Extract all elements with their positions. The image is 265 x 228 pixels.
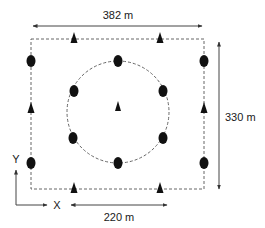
ellipse-markers	[27, 55, 209, 169]
width-label: 382 m	[103, 9, 134, 21]
inner-circle	[67, 61, 169, 163]
ellipse-marker-icon	[200, 55, 209, 67]
ellipse-marker-icon	[27, 55, 36, 67]
ellipse-marker-icon	[200, 157, 209, 169]
diameter-label: 220 m	[104, 211, 135, 223]
ellipse-marker-icon	[159, 85, 168, 97]
ellipse-marker-icon	[114, 55, 123, 67]
triangle-marker-icon	[71, 182, 78, 193]
triangle-marker-icon	[71, 32, 78, 43]
ellipse-marker-icon	[159, 132, 168, 144]
ellipse-marker-icon	[69, 132, 78, 144]
field-layout-diagram: 382 m 330 m Y X 220 m	[0, 0, 265, 228]
ellipse-marker-icon	[70, 85, 79, 97]
ellipse-marker-icon	[114, 157, 123, 169]
triangle-marker-icon	[201, 102, 208, 113]
height-label: 330 m	[225, 111, 256, 123]
ellipse-marker-icon	[27, 157, 36, 169]
triangle-marker-icon	[157, 32, 164, 43]
x-axis-label: X	[53, 199, 61, 211]
triangle-marker-icon	[28, 102, 35, 113]
triangle-marker-icon	[157, 182, 164, 193]
triangle-marker-icon	[115, 101, 121, 111]
y-axis-label: Y	[12, 153, 20, 165]
